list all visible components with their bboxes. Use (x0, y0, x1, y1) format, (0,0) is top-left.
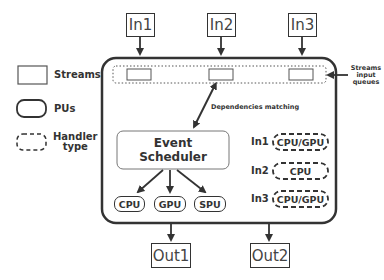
pu-cpu: CPU (114, 196, 145, 212)
scheduler-to-cpu-arrow (138, 170, 163, 192)
event-scheduler-label: Event Scheduler (117, 136, 229, 164)
pu-spu: SPU (194, 196, 226, 212)
legend-pus-shape (17, 100, 46, 117)
dependencies-label: Dependencies matching (211, 103, 299, 111)
queue-slot-in3 (289, 69, 313, 80)
handler-in1-type: CPU/GPU (273, 134, 328, 150)
handler-in1-stream: In1 (251, 136, 269, 147)
queues-annotation: Streams input queues (348, 65, 384, 86)
legend-handler-label-line2: type (53, 142, 98, 152)
handler-in2-stream: In2 (251, 165, 269, 176)
pu-gpu: GPU (154, 196, 186, 212)
input-stream-in1: In1 (126, 13, 155, 37)
handler-in3-stream: In3 (251, 193, 269, 204)
scheduler-to-spu-arrow (177, 170, 205, 192)
handler-in2-type: CPU (273, 163, 328, 179)
legend-handler-shape (17, 134, 46, 150)
legend-streams-shape (18, 66, 47, 84)
queue-slot-in2 (209, 69, 233, 80)
queues-annotation-line3: queues (348, 79, 384, 86)
legend-pus-label: PUs (54, 103, 75, 114)
output-stream-out1: Out1 (151, 243, 191, 268)
input-stream-in3: In3 (288, 13, 317, 37)
legend-streams-label: Streams (54, 69, 101, 80)
input-stream-in2: In2 (207, 13, 236, 37)
handler-in3-type: CPU/GPU (273, 191, 328, 207)
queue-slot-in1 (127, 69, 151, 80)
event-scheduler-line2: Scheduler (117, 150, 229, 164)
legend-handler-label: Handler type (53, 132, 98, 152)
event-scheduler-line1: Event (117, 136, 229, 150)
output-stream-out2: Out2 (250, 243, 290, 268)
